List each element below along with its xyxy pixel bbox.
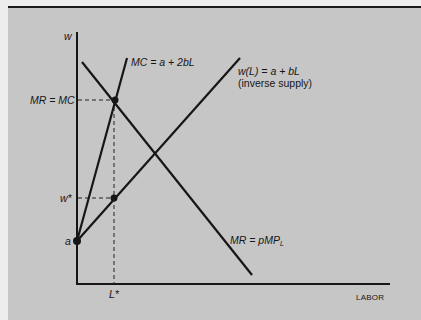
mr-mc-point bbox=[112, 97, 119, 104]
mr-eq-mc-tick-label: MR = MC bbox=[30, 95, 75, 106]
mr-curve-label-subscript: L bbox=[280, 240, 284, 247]
intercept-a-tick-label: a bbox=[65, 236, 71, 247]
intercept-a-point bbox=[73, 237, 81, 245]
supply-curve-sublabel: (inverse supply) bbox=[238, 78, 312, 89]
supply-curve-label: w(L) = a + bL bbox=[238, 66, 300, 77]
mc-curve-label: MC = a + 2bL bbox=[131, 57, 195, 68]
x-axis-label: LABOR bbox=[356, 292, 384, 303]
y-axis-label: w bbox=[64, 31, 72, 42]
mr-curve-label-main: MR = pMP bbox=[230, 234, 280, 246]
marginal-revenue-curve bbox=[82, 62, 252, 275]
l-star-tick-label: L* bbox=[109, 289, 119, 300]
w-star-point bbox=[111, 195, 118, 202]
mr-curve-label: MR = pMPL bbox=[230, 235, 284, 249]
w-star-tick-label: w* bbox=[60, 193, 72, 204]
monopsony-diagram bbox=[0, 0, 421, 320]
